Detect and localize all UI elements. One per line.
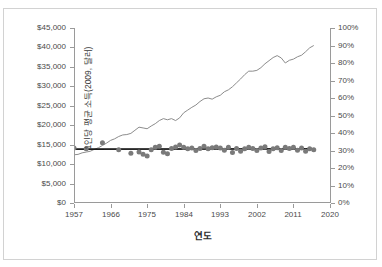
right-axis-tick: [331, 168, 335, 169]
right-axis-tick: [331, 46, 335, 47]
right-axis-tick: [331, 98, 335, 99]
x-axis-tick-label: 2020: [313, 211, 347, 219]
x-axis-tick: [293, 204, 294, 208]
x-axis-tick-label: 1984: [167, 211, 201, 219]
left-axis-tick-label: $35,000: [22, 63, 66, 71]
x-axis-tick: [330, 204, 331, 208]
scatter-point: [311, 147, 316, 152]
x-axis-tick-label: 1975: [130, 211, 164, 219]
scatter-point: [267, 149, 272, 154]
left-axis-line: [74, 28, 75, 203]
right-axis-tick-label: 10%: [338, 182, 364, 190]
x-axis-tick: [74, 204, 75, 208]
left-axis-tick-label: $5,000: [22, 180, 66, 188]
left-axis-tick: [70, 184, 74, 185]
x-axis-tick-label: 2011: [276, 211, 310, 219]
right-axis-tick-label: 60%: [338, 94, 364, 102]
plot-area: [74, 28, 330, 203]
left-axis-tick: [70, 67, 74, 68]
right-axis-tick: [331, 116, 335, 117]
scatter-point: [299, 146, 304, 151]
left-axis-tick: [70, 125, 74, 126]
scatter-point: [226, 145, 231, 150]
left-axis-tick-label: $25,000: [22, 102, 66, 110]
right-axis-tick-label: 100%: [338, 24, 364, 32]
left-axis-tick-label: $40,000: [22, 43, 66, 51]
x-axis-tick: [111, 204, 112, 208]
bottom-axis-line: [74, 202, 331, 203]
plot-svg: [74, 28, 330, 203]
right-axis-tick-label: 30%: [338, 147, 364, 155]
scatter-point: [234, 146, 239, 151]
right-axis-tick: [331, 186, 335, 187]
scatter-point: [145, 154, 150, 159]
left-axis-tick: [70, 164, 74, 165]
left-axis-title: 1인당 평균 소득(2009, 달러): [81, 11, 95, 186]
right-axis-tick-label: 20%: [338, 164, 364, 172]
right-axis-tick: [331, 203, 335, 204]
left-axis-tick: [70, 28, 74, 29]
chart-figure: $0$5,000$10,000$15,000$20,000$25,000$30,…: [0, 0, 382, 267]
x-axis-tick-label: 1957: [57, 211, 91, 219]
left-axis-tick-label: $20,000: [22, 121, 66, 129]
left-axis-tick: [70, 106, 74, 107]
x-axis-tick: [257, 204, 258, 208]
scatter-point: [222, 148, 227, 153]
scatter-point: [128, 151, 133, 156]
x-axis-tick-label: 2002: [240, 211, 274, 219]
left-axis-tick-label: $15,000: [22, 141, 66, 149]
left-axis-tick: [70, 145, 74, 146]
right-axis-tick-label: 70%: [338, 77, 364, 85]
left-axis-tick-label: $0: [22, 199, 66, 207]
scatter-point: [116, 147, 121, 152]
x-axis-tick: [147, 204, 148, 208]
x-axis-tick: [184, 204, 185, 208]
right-axis-tick-label: 80%: [338, 59, 364, 67]
x-axis-tick: [220, 204, 221, 208]
scatter-point: [165, 151, 170, 156]
scatter-point: [230, 150, 235, 155]
right-axis-tick-label: 90%: [338, 42, 364, 50]
x-axis-title: 연도: [74, 228, 331, 242]
scatter-point: [279, 148, 284, 153]
left-axis-tick-label: $45,000: [22, 24, 66, 32]
right-axis-tick: [331, 151, 335, 152]
right-axis-tick: [331, 28, 335, 29]
right-axis-tick: [331, 63, 335, 64]
scatter-point: [291, 145, 296, 150]
right-axis-tick: [331, 81, 335, 82]
left-axis-tick: [70, 47, 74, 48]
left-axis-tick-label: $30,000: [22, 82, 66, 90]
income-line-series: [74, 46, 314, 155]
right-axis-tick-label: 50%: [338, 112, 364, 120]
scatter-point: [157, 144, 162, 149]
x-axis-tick-label: 1966: [94, 211, 128, 219]
left-axis-tick-label: $10,000: [22, 160, 66, 168]
left-axis-tick: [70, 86, 74, 87]
right-axis-tick-label: 40%: [338, 129, 364, 137]
scatter-point: [275, 145, 280, 150]
right-axis-tick-label: 0%: [338, 199, 364, 207]
scatter-point: [100, 140, 105, 145]
x-axis-tick-label: 1993: [203, 211, 237, 219]
scatter-point: [262, 144, 267, 149]
right-axis-tick: [331, 133, 335, 134]
